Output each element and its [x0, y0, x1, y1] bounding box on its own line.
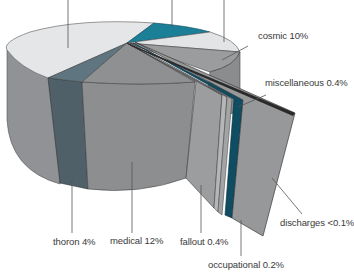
label-fallout: fallout 0.4%	[180, 236, 228, 247]
label-discharges: discharges <0.1%	[280, 217, 354, 228]
label-thoron: thoron 4%	[53, 236, 95, 247]
label-miscellaneous: miscellaneous 0.4%	[265, 77, 348, 88]
slice-medical-side	[82, 82, 195, 191]
label-cosmic: cosmic 10%	[258, 30, 308, 41]
label-occupational: occupational 0.2%	[208, 259, 284, 270]
label-medical: medical 12%	[110, 235, 163, 246]
